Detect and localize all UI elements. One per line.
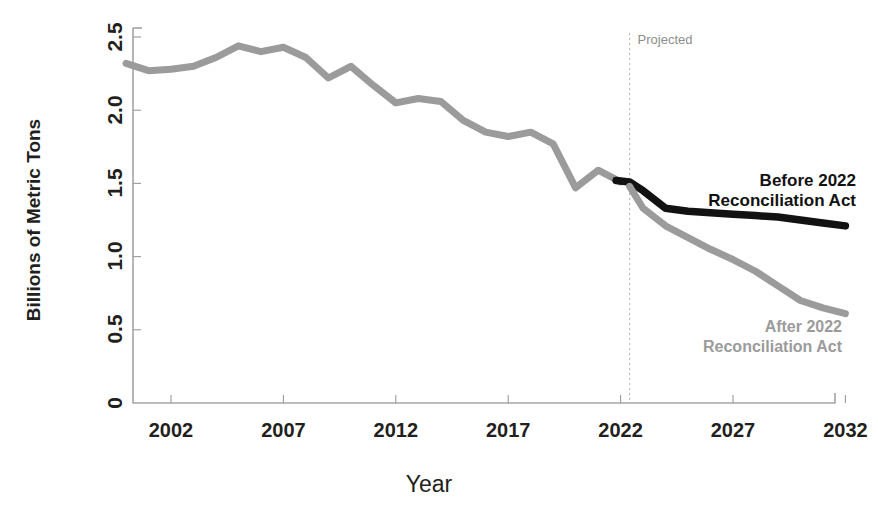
x-tick-label: 2032 [823, 419, 868, 441]
x-tick-label: 2022 [598, 419, 643, 441]
x-axis-title: Year [406, 471, 453, 497]
y-tick-label: 1.0 [103, 241, 126, 270]
chart-figure: Billions of Metric Tons 2.5 2.0 1.5 1.0 … [0, 0, 878, 513]
y-tick-label: 2.5 [103, 22, 126, 52]
y-tick-label: 1.5 [103, 168, 126, 198]
y-tick-label: 0.5 [103, 314, 126, 344]
series-line-historical [126, 46, 621, 188]
x-tick-label: 2012 [374, 419, 419, 441]
projected-label: Projected [638, 32, 693, 47]
y-tick-labels: 2.5 2.0 1.5 1.0 0.5 0 [103, 22, 126, 409]
x-tick-label: 2017 [486, 419, 531, 441]
series-annotations: Before 2022Reconciliation ActAfter 2022R… [703, 171, 856, 355]
x-tick-label: 2002 [149, 419, 194, 441]
before-2022-label-line-2: Reconciliation Act [708, 191, 856, 210]
x-tick-label: 2027 [711, 419, 756, 441]
emissions-line-chart: Billions of Metric Tons 2.5 2.0 1.5 1.0 … [0, 0, 878, 513]
y-axis-title: Billions of Metric Tons [23, 119, 44, 321]
after-2022-label-line-2: Reconciliation Act [703, 338, 843, 355]
x-tick-label: 2007 [261, 419, 306, 441]
before-2022-label-line-1: Before 2022 [760, 171, 856, 190]
x-tick-labels: 2002200720122017202220272032 [149, 419, 868, 441]
y-tick-label: 2.0 [103, 95, 126, 124]
projection-divider: Projected [630, 32, 693, 403]
y-tick-label: 0 [103, 397, 126, 409]
data-series [126, 46, 845, 314]
after-2022-label-line-1: After 2022 [765, 318, 842, 335]
